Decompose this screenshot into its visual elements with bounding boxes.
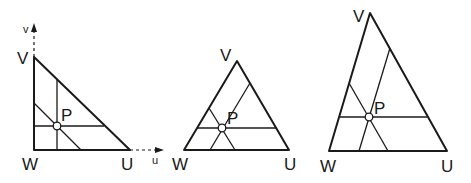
- v-axis-label: v: [23, 23, 29, 35]
- v-axis-arrow-icon: [31, 23, 37, 32]
- point-label-p: P: [227, 109, 238, 128]
- u-axis-arrow-icon: [155, 147, 164, 153]
- point-p: [53, 122, 61, 130]
- triangle-outline: [34, 57, 130, 150]
- vertex-label-v: V: [220, 46, 232, 65]
- point-p: [218, 124, 226, 132]
- scalene-triangle-figure: V W U P: [320, 7, 453, 176]
- point-label-p: P: [61, 106, 72, 125]
- u-axis-label: u: [152, 154, 158, 166]
- vertex-label-u: U: [441, 157, 453, 176]
- vertex-label-w: W: [320, 157, 336, 176]
- triangle-outline: [329, 13, 447, 151]
- vertex-label-v: V: [17, 49, 29, 68]
- vertex-label-u: U: [121, 155, 133, 174]
- vertex-label-w: W: [22, 155, 38, 174]
- vertex-label-w: W: [172, 155, 188, 174]
- right-triangle-figure: v u V W U P: [17, 23, 164, 174]
- triangle-diagram: v u V W U P V W U P V: [0, 0, 471, 183]
- vertex-label-v: V: [353, 7, 365, 26]
- point-label-p: P: [374, 99, 385, 118]
- vertex-label-u: U: [284, 155, 296, 174]
- point-p: [365, 113, 373, 121]
- equilateral-triangle-figure: V W U P: [172, 46, 296, 174]
